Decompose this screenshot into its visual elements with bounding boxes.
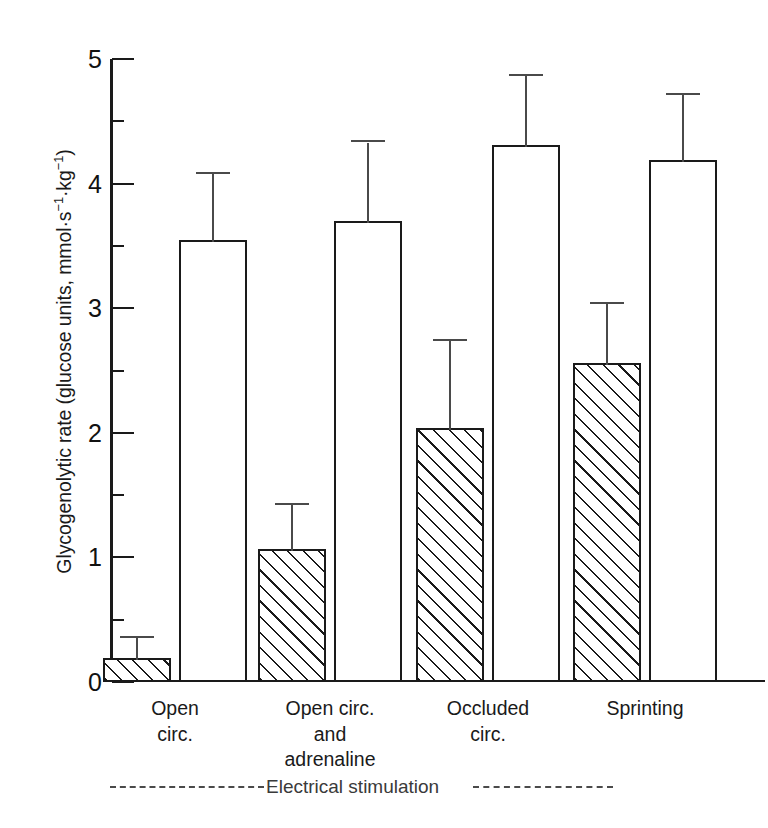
x-category-label-line: circ. [398,722,578,748]
x-category-label: Sprinting [555,696,735,722]
error-bar-stem [606,304,608,365]
x-category-label-line: and [240,722,420,748]
bracket-label: Electrical stimulation [264,776,443,798]
y-tick-major: 1 [112,556,134,558]
y-axis-label-prefix: Glycogenolytic rate (glucose units, mmol… [53,212,75,574]
x-category-label-line: Sprinting [555,696,735,722]
y-tick-label: 4 [88,171,102,196]
x-category-label-line: Open [85,696,265,722]
error-bar-cap [590,302,624,304]
error-bar-stem [682,95,684,162]
error-bar-cap [275,503,309,505]
y-axis-label-suffix: ) [53,149,75,155]
bar-white [334,221,402,682]
bar-hatched [416,428,484,682]
x-category-label-line: circ. [85,722,265,748]
bar-hatched [258,549,326,682]
y-axis-label-exponent-2: −1 [51,156,66,170]
bar-hatched [573,363,641,682]
x-category-label-line: adrenaline [240,747,420,773]
x-category-label: Open circ.andadrenaline [240,696,420,773]
error-bar-cap [351,140,385,142]
bar-white [179,240,247,682]
error-bar-stem [367,143,369,223]
y-axis-label: Glycogenolytic rate (glucose units, mmol… [53,52,76,672]
y-tick-label: 5 [88,47,102,72]
error-bar-cap [120,636,154,638]
error-bar-stem [212,174,214,242]
x-category-label: Occludedcirc. [398,696,578,747]
x-category-label-line: Open circ. [240,696,420,722]
bar-white [492,145,560,682]
bracket-dashes-left [110,786,264,788]
y-tick-major: 4 [112,183,134,185]
error-bar-stem [525,76,527,147]
error-bar-cap [196,172,230,174]
glycogenolytic-rate-bar-chart: Glycogenolytic rate (glucose units, mmol… [0,0,768,828]
y-tick-minor [112,370,124,372]
y-tick-minor [112,120,124,122]
y-tick-label: 3 [88,296,102,321]
bar-hatched [103,658,171,682]
y-tick-minor [112,245,124,247]
plot-area: 012345 [110,59,765,682]
y-tick-label: 2 [88,420,102,445]
bracket-dashes-right [473,786,613,788]
error-bar-cap [433,339,467,341]
y-axis-label-mid: ·kg [53,170,75,197]
error-bar-cap [666,93,700,95]
x-category-label: Opencirc. [85,696,265,747]
error-bar-cap [509,74,543,76]
y-tick-major: 5 [112,58,134,60]
y-tick-label: 0 [88,670,102,695]
electrical-stimulation-bracket: Electrical stimulation [110,775,640,799]
y-tick-major: 2 [112,432,134,434]
error-bar-stem [449,341,451,430]
y-tick-minor [112,619,124,621]
y-tick-minor [112,494,124,496]
x-category-label-line: Occluded [398,696,578,722]
y-axis-label-exponent-1: −1 [51,197,66,211]
y-tick-label: 1 [88,545,102,570]
error-bar-stem [291,505,293,551]
error-bar-stem [136,638,138,660]
y-tick-major: 3 [112,307,134,309]
bar-white [649,160,717,682]
